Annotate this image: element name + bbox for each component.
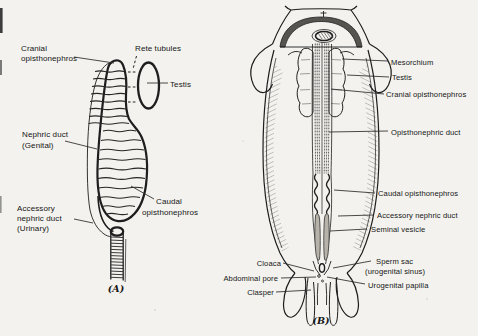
label-b-cloaca: Cloaca [257,259,282,268]
figure-b-left-myomeres [265,65,290,252]
label-b-opisthonephric-duct: Opisthonephric duct [391,128,461,137]
label-b-sperm-sac-line1: Sperm sac [376,257,413,266]
figure-b-dogfish-ventral-view: Mesorchium Testis Cranial opisthonephros… [223,6,466,326]
anatomy-diagram: Cranial opisthonephros Rete tubules Test… [0,0,478,336]
figure-b-head-dome [280,17,362,55]
figure-b-caption: (B) [312,315,329,326]
figure-a-urinary-tube [111,227,126,282]
label-a-cranial-opisthonephros-line1: Cranial [21,44,47,53]
label-a-caudal-line1: Caudal [156,197,182,206]
label-b-mesorchium: Mesorchium [391,58,433,67]
label-a-accessory-line2: nephric duct [17,214,62,223]
label-a-accessory-line3: (Urinary) [17,224,49,233]
figure-b-seminal-vesicles [315,214,329,261]
label-b-sperm-sac-line2: (urogenital sinus) [365,267,425,276]
label-b-testis: Testis [392,73,412,82]
label-a-rete-tubules: Rete tubules [135,44,181,53]
figure-b-cloaca-region [313,261,331,305]
label-a-caudal-line2: opisthonephros [142,208,198,217]
figure-a-cranial-tubules [89,71,130,124]
figure-b-pectoral-fins [251,44,391,93]
figure-a-caudal-tubules [98,130,146,214]
label-b-clasper: Clasper [247,288,274,297]
label-b-caudal-opisthonephros: Caudal opisthonephros [378,189,458,198]
figure-a-caption: (A) [108,283,124,294]
figure-b-testis-lobes [297,48,346,117]
label-a-testis: Testis [170,80,191,89]
label-b-abdominal-pore: Abdominal pore [223,274,278,283]
textbook-figure-page: Cranial opisthonephros Rete tubules Test… [0,0,478,336]
label-b-seminal-vesicle: Seminal vesicle [371,225,425,234]
label-a-accessory-line1: Accessory [17,204,55,213]
figure-a-rete-tubule-dashes [128,56,138,102]
label-a-cranial-opisthonephros-line2: opisthonephros [21,54,77,63]
label-b-accessory-nephric-duct: Accessory nephric duct [377,211,458,220]
figure-a-testis-shape [138,63,159,109]
label-a-nephric-duct-line1: Nephric duct [22,130,69,139]
label-b-cranial-opisthonephros: Cranial opisthonephros [386,90,466,99]
label-b-urogenital-papilla: Urogenital papilla [368,281,429,290]
figure-a-schematic: Cranial opisthonephros Rete tubules Test… [17,44,198,294]
label-a-nephric-duct-line2: (Genital) [22,141,54,150]
figure-b-clasper-right [329,278,337,325]
